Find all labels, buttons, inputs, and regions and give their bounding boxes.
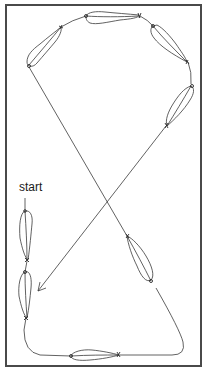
start-label: start: [19, 181, 42, 193]
